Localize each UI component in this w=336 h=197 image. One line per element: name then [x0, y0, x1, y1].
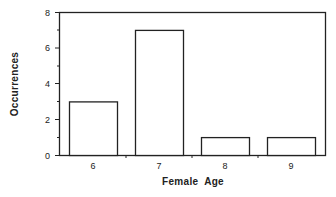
- bar-8: [202, 138, 250, 156]
- x-axis-label: Female Age: [162, 176, 224, 187]
- x-tick-label: 7: [156, 161, 161, 171]
- bars: [70, 30, 316, 155]
- y-tick-label: 8: [45, 8, 50, 18]
- bar-6: [70, 102, 118, 156]
- y-tick-label: 6: [45, 43, 50, 53]
- bar-9: [268, 138, 316, 156]
- x-tick-labels: 6 7 8 9: [90, 161, 293, 171]
- y-axis-ticks: [55, 13, 60, 156]
- y-axis-label: Occurrences: [9, 52, 20, 117]
- y-tick-label: 0: [45, 151, 50, 161]
- y-tick-labels: 0 2 4 6 8: [45, 8, 50, 161]
- bar-chart: 0 2 4 6 8 6 7 8 9 Female Age Occurrences: [0, 0, 336, 197]
- y-tick-label: 2: [45, 115, 50, 125]
- x-tick-label: 9: [288, 161, 293, 171]
- x-tick-label: 8: [222, 161, 227, 171]
- x-tick-label: 6: [90, 161, 95, 171]
- bar-7: [136, 30, 184, 155]
- y-tick-label: 4: [45, 79, 50, 89]
